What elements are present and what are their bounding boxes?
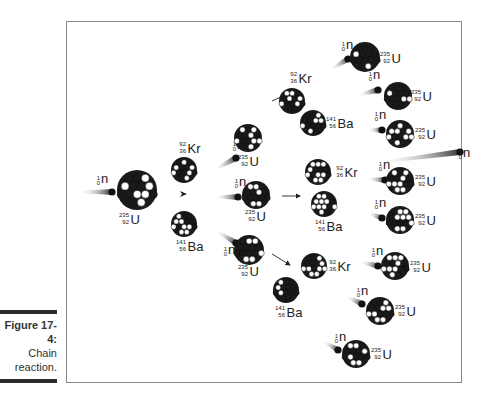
svg-text:n: n bbox=[379, 107, 386, 122]
svg-text:n: n bbox=[379, 195, 386, 210]
svg-text:Kr: Kr bbox=[299, 71, 313, 86]
svg-text:92: 92 bbox=[290, 71, 297, 77]
gen2-neutron-6 bbox=[367, 210, 386, 221]
svg-text:141: 141 bbox=[326, 116, 337, 122]
gen3-uranium-5-label: 23592U bbox=[415, 174, 436, 189]
svg-text:Kr: Kr bbox=[188, 141, 202, 156]
gen2-arrow-3 bbox=[272, 254, 290, 265]
gen1-neutron-2-label: 10n bbox=[235, 174, 247, 189]
gen3-uranium-8-label: 23592U bbox=[395, 304, 416, 319]
gen3-uranium-8 bbox=[366, 297, 394, 325]
svg-text:U: U bbox=[423, 89, 432, 104]
svg-text:92: 92 bbox=[398, 311, 405, 317]
svg-text:235: 235 bbox=[410, 260, 421, 266]
svg-text:U: U bbox=[422, 260, 431, 275]
svg-text:235: 235 bbox=[238, 154, 249, 160]
gen3-uranium-6-label: 23592U bbox=[415, 213, 436, 228]
svg-text:56: 56 bbox=[278, 312, 285, 318]
svg-text:Ba: Ba bbox=[338, 116, 355, 131]
incoming-neutron-label: 10n bbox=[97, 171, 109, 186]
gen2-uranium-2-label: 23592U bbox=[245, 209, 266, 224]
svg-text:235: 235 bbox=[415, 174, 426, 180]
svg-text:U: U bbox=[257, 209, 266, 224]
svg-text:92: 92 bbox=[241, 161, 248, 167]
fission-arrow bbox=[180, 191, 187, 197]
gen1-neutron-3-label: 10n bbox=[224, 242, 236, 257]
gen2-barium-3 bbox=[273, 277, 299, 303]
gen2-neutron-3-label: 10n bbox=[375, 107, 387, 122]
gen2-barium-1-label: 14156Ba bbox=[326, 116, 354, 131]
gen1-barium-nucleus bbox=[171, 211, 197, 237]
svg-text:92: 92 bbox=[248, 216, 255, 222]
gen2-neutron-6-label: 10n bbox=[375, 195, 387, 210]
gen3-uranium-2 bbox=[384, 82, 412, 110]
svg-text:141: 141 bbox=[176, 239, 187, 245]
gen3-uranium-6 bbox=[386, 206, 414, 234]
svg-text:U: U bbox=[427, 213, 436, 228]
chain-reaction-diagram: 10n23592U9236Kr14156Ba10n23592U10n23592U… bbox=[0, 0, 480, 402]
svg-text:U: U bbox=[250, 264, 259, 279]
svg-text:n: n bbox=[376, 243, 383, 258]
gen2-uranium-1-label: 23592U bbox=[238, 154, 259, 169]
svg-text:56: 56 bbox=[329, 123, 336, 129]
gen2-krypton-1-label: 9236Kr bbox=[290, 71, 312, 86]
gen2-neutron-8-label: 10n bbox=[357, 283, 369, 298]
gen1-krypton-nucleus bbox=[171, 157, 197, 183]
gen2-neutron-3 bbox=[368, 126, 386, 133]
svg-text:235: 235 bbox=[245, 209, 256, 215]
gen2-neutron-1-label: 10n bbox=[342, 37, 354, 52]
svg-text:56: 56 bbox=[318, 226, 325, 232]
svg-text:Kr: Kr bbox=[338, 259, 352, 274]
svg-text:235: 235 bbox=[380, 51, 391, 57]
svg-text:n: n bbox=[373, 67, 380, 82]
gen3-uranium-3-label: 23592U bbox=[415, 127, 436, 142]
gen2-neutron-9-label: 10n bbox=[335, 329, 347, 344]
gen2-krypton-3-label: 9236Kr bbox=[329, 259, 351, 274]
svg-text:92: 92 bbox=[329, 259, 336, 265]
svg-text:92: 92 bbox=[413, 267, 420, 273]
svg-text:56: 56 bbox=[179, 246, 186, 252]
svg-text:36: 36 bbox=[329, 266, 336, 272]
svg-text:Kr: Kr bbox=[345, 165, 359, 180]
gen2-neutron-7 bbox=[359, 259, 381, 270]
gen3-uranium-9 bbox=[342, 340, 370, 368]
gen1-krypton-label: 9236Kr bbox=[179, 141, 201, 156]
svg-text:235: 235 bbox=[415, 127, 426, 133]
gen2-krypton-2-label: 9236Kr bbox=[336, 165, 358, 180]
svg-text:92: 92 bbox=[414, 96, 421, 102]
gen2-barium-2-label: 14156Ba bbox=[315, 219, 343, 234]
svg-text:n: n bbox=[383, 157, 390, 172]
gen3-uranium-1-label: 23592U bbox=[380, 51, 401, 66]
gen2-barium-2 bbox=[311, 191, 337, 217]
svg-text:235: 235 bbox=[371, 347, 382, 353]
svg-text:U: U bbox=[427, 127, 436, 142]
svg-text:92: 92 bbox=[179, 141, 186, 147]
gen1-neutron-2 bbox=[214, 193, 242, 200]
svg-text:U: U bbox=[427, 174, 436, 189]
gen2-krypton-1 bbox=[279, 88, 305, 114]
svg-text:36: 36 bbox=[336, 172, 343, 178]
gen2-neutron-1 bbox=[328, 55, 351, 72]
svg-text:U: U bbox=[407, 304, 416, 319]
gen2-uranium-2 bbox=[242, 181, 270, 209]
svg-text:n: n bbox=[463, 145, 470, 160]
svg-text:U: U bbox=[131, 212, 140, 227]
gen2-barium-1 bbox=[300, 110, 326, 136]
svg-text:92: 92 bbox=[336, 165, 343, 171]
svg-text:92: 92 bbox=[374, 354, 381, 360]
gen3-uranium-7-label: 23592U bbox=[410, 260, 431, 275]
svg-text:n: n bbox=[339, 329, 346, 344]
incoming-neutron bbox=[78, 188, 116, 195]
gen2-barium-3-label: 14156Ba bbox=[275, 305, 303, 320]
svg-text:235: 235 bbox=[411, 89, 422, 95]
gen2-neutron-7-label: 10n bbox=[372, 243, 384, 258]
svg-text:U: U bbox=[383, 347, 392, 362]
svg-text:U: U bbox=[250, 154, 259, 169]
initial-uranium-label: 23592U bbox=[119, 212, 140, 227]
svg-text:141: 141 bbox=[275, 305, 286, 311]
gen1-neutron-1 bbox=[213, 154, 240, 172]
svg-text:Ba: Ba bbox=[287, 305, 304, 320]
svg-text:n: n bbox=[101, 171, 108, 186]
gen2-uranium-1 bbox=[234, 124, 262, 152]
svg-text:92: 92 bbox=[241, 271, 248, 277]
